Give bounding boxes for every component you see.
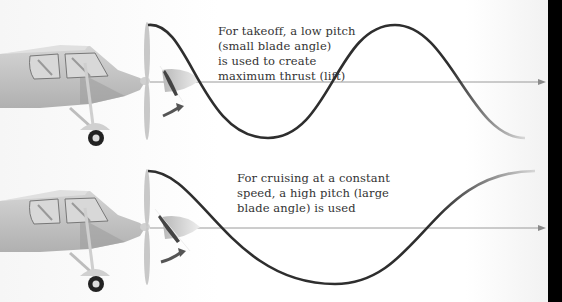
takeoff-caption: For takeoff, a low pitch (small blade an…: [218, 24, 356, 84]
takeoff-panel: For takeoff, a low pitch (small blade an…: [0, 0, 548, 151]
diagram-canvas: For takeoff, a low pitch (small blade an…: [0, 0, 548, 302]
airplane-icon: [0, 45, 150, 146]
cruising-caption: For cruising at a constant speed, a high…: [237, 171, 390, 216]
rotation-arrow-icon: [163, 103, 184, 116]
blade-angle-diagram: [155, 209, 200, 251]
edge-band: [548, 0, 562, 302]
airplane-icon: [0, 190, 150, 292]
rotation-arrow-icon: [161, 248, 186, 262]
flight-axis-arrow: [150, 225, 546, 231]
cruising-panel: For cruising at a constant speed, a high…: [0, 151, 548, 302]
